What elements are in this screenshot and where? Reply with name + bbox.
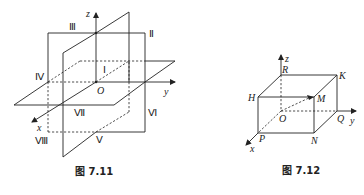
om-arrow-icon: [307, 95, 314, 100]
z-axis-label-7-12: z: [284, 53, 289, 64]
caption-7-12: 图 7.12: [282, 165, 320, 176]
octant-2-label: Ⅱ: [149, 28, 154, 39]
x-axis: [32, 82, 96, 122]
diagram-canvas: z y x O Ⅰ Ⅱ Ⅲ Ⅳ Ⅴ Ⅵ Ⅶ Ⅷ 图 7.11 z: [0, 0, 364, 195]
figure-7-11: z y x O Ⅰ Ⅱ Ⅲ Ⅳ Ⅴ Ⅵ Ⅶ Ⅷ 图 7.11: [14, 8, 175, 177]
x-axis-label-7-12: x: [249, 143, 255, 154]
edge-NQ: [314, 111, 337, 133]
origin-label: O: [97, 85, 104, 96]
segment-OM: [281, 97, 311, 111]
x-axis-label: x: [36, 122, 42, 133]
octant-5-label: Ⅴ: [96, 134, 103, 145]
vertex-P: P: [258, 133, 265, 144]
figure-7-12: z y x R K H M O Q P N 图 7.12: [246, 53, 356, 176]
y-axis-label-7-12: y: [349, 115, 355, 126]
octant-7-label: Ⅶ: [74, 107, 85, 118]
vertex-R: R: [281, 64, 288, 75]
vertex-K: K: [338, 70, 347, 81]
octant-1-label: Ⅰ: [103, 64, 106, 75]
z-axis-label: z: [85, 8, 90, 19]
octant-6-label: Ⅵ: [148, 107, 157, 118]
vertex-M: M: [316, 93, 326, 104]
y-axis-label: y: [163, 86, 169, 97]
edge-RH: [258, 75, 281, 97]
vertex-Q: Q: [337, 113, 345, 124]
octant-3-label: Ⅲ: [69, 21, 76, 32]
vertex-O: O: [279, 113, 286, 124]
octant-8-label: Ⅷ: [35, 135, 48, 146]
edge-OP: [258, 111, 281, 133]
vertex-H: H: [247, 92, 256, 103]
vertex-N: N: [310, 135, 319, 146]
octant-4-label: Ⅳ: [35, 71, 45, 82]
caption-7-11: 图 7.11: [75, 166, 113, 177]
